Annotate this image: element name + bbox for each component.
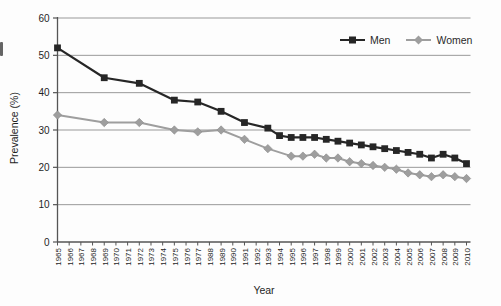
women-marker bbox=[416, 171, 424, 179]
x-tick-label: 1968 bbox=[89, 247, 98, 265]
men-marker bbox=[393, 147, 400, 154]
women-marker bbox=[334, 154, 342, 162]
y-tick-label: 40 bbox=[38, 87, 50, 98]
x-tick-label: 1994 bbox=[276, 247, 285, 265]
women-marker bbox=[264, 144, 272, 152]
women-marker bbox=[357, 159, 365, 167]
x-tick-label: 2010 bbox=[463, 247, 472, 265]
x-tick-label: 2009 bbox=[451, 247, 460, 265]
women-marker bbox=[135, 118, 143, 126]
y-tick-label: 50 bbox=[38, 50, 50, 61]
x-tick-label: 1999 bbox=[334, 247, 343, 265]
men-marker bbox=[416, 151, 423, 158]
legend-label-women: Women bbox=[436, 34, 472, 46]
x-tick-label: 2008 bbox=[440, 247, 449, 265]
women-marker bbox=[369, 161, 377, 169]
y-tick-label: 20 bbox=[38, 162, 50, 173]
x-tick-label: 1965 bbox=[54, 247, 63, 265]
x-tick-label: 2006 bbox=[416, 247, 425, 265]
men-marker bbox=[358, 142, 365, 149]
smoking-prevalence-chart: 0102030405060196519661967196819691970197… bbox=[0, 0, 501, 306]
women-marker bbox=[240, 135, 248, 143]
x-tick-label: 1966 bbox=[66, 247, 75, 265]
x-tick-label: 1993 bbox=[264, 247, 273, 265]
women-marker bbox=[310, 150, 318, 158]
women-marker bbox=[217, 126, 225, 134]
x-tick-label: 1974 bbox=[159, 247, 168, 265]
men-marker bbox=[405, 149, 412, 156]
y-tick-label: 60 bbox=[38, 13, 50, 24]
x-tick-label: 2001 bbox=[358, 247, 367, 265]
men-marker bbox=[264, 125, 271, 132]
women-marker bbox=[451, 172, 459, 180]
men-marker bbox=[194, 99, 201, 106]
x-tick-label: 1972 bbox=[136, 247, 145, 265]
x-tick-label: 2002 bbox=[370, 247, 379, 265]
women-marker bbox=[100, 118, 108, 126]
y-tick-label: 10 bbox=[38, 199, 50, 210]
x-tick-label: 2005 bbox=[405, 247, 414, 265]
men-marker bbox=[288, 134, 295, 141]
men-marker bbox=[323, 136, 330, 143]
x-tick-label: 1988 bbox=[206, 247, 215, 265]
y-axis-title: Prevalence (%) bbox=[8, 67, 20, 189]
legend-item-men: Men bbox=[340, 34, 390, 46]
x-tick-label: 1976 bbox=[183, 247, 192, 265]
men-marker bbox=[311, 134, 318, 141]
y-tick-label: 0 bbox=[44, 237, 50, 248]
x-tick-label: 1991 bbox=[241, 247, 250, 265]
men-marker bbox=[241, 119, 248, 126]
x-axis-title: Year bbox=[233, 284, 295, 296]
scan-artifact-smudge bbox=[0, 42, 3, 56]
x-tick-label: 1990 bbox=[229, 247, 238, 265]
women-marker bbox=[53, 111, 61, 119]
women-marker bbox=[322, 154, 330, 162]
x-tick-label: 1989 bbox=[218, 247, 227, 265]
men-marker bbox=[451, 155, 458, 162]
men-marker bbox=[276, 132, 283, 139]
men-marker bbox=[463, 160, 470, 167]
men-series-swatch-icon bbox=[340, 35, 365, 45]
women-marker bbox=[462, 174, 470, 182]
women-marker bbox=[194, 128, 202, 136]
x-tick-label: 2000 bbox=[346, 247, 355, 265]
men-marker bbox=[346, 140, 353, 147]
women-marker bbox=[345, 158, 353, 166]
men-marker bbox=[381, 145, 388, 152]
women-line bbox=[58, 115, 467, 178]
x-tick-label: 1971 bbox=[124, 247, 133, 265]
x-tick-label: 1970 bbox=[112, 247, 121, 265]
x-tick-label: 1975 bbox=[171, 247, 180, 265]
x-tick-label: 2004 bbox=[393, 247, 402, 265]
women-marker bbox=[392, 165, 400, 173]
x-tick-label: 1996 bbox=[299, 247, 308, 265]
legend-item-women: Women bbox=[406, 34, 472, 46]
women-marker bbox=[381, 163, 389, 171]
men-marker bbox=[171, 97, 178, 104]
men-marker bbox=[370, 143, 377, 150]
x-tick-label: 2007 bbox=[428, 247, 437, 265]
x-tick-label: 1995 bbox=[288, 247, 297, 265]
x-tick-label: 1967 bbox=[77, 247, 86, 265]
x-tick-label: 1992 bbox=[253, 247, 262, 265]
men-marker bbox=[101, 74, 108, 81]
x-tick-label: 1977 bbox=[194, 247, 203, 265]
men-marker bbox=[428, 155, 435, 162]
women-series-swatch-icon bbox=[406, 35, 431, 45]
men-marker bbox=[54, 44, 61, 51]
x-tick-label: 2003 bbox=[381, 247, 390, 265]
women-marker bbox=[404, 169, 412, 177]
women-marker bbox=[299, 152, 307, 160]
women-marker bbox=[427, 172, 435, 180]
x-tick-label: 1969 bbox=[101, 247, 110, 265]
y-tick-label: 30 bbox=[38, 125, 50, 136]
men-marker bbox=[218, 108, 225, 115]
legend: Men Women bbox=[340, 34, 472, 46]
women-marker bbox=[287, 152, 295, 160]
women-marker bbox=[439, 171, 447, 179]
women-marker bbox=[170, 126, 178, 134]
men-marker bbox=[440, 151, 447, 158]
men-marker bbox=[335, 138, 342, 145]
x-tick-label: 1973 bbox=[147, 247, 156, 265]
men-marker bbox=[300, 134, 307, 141]
